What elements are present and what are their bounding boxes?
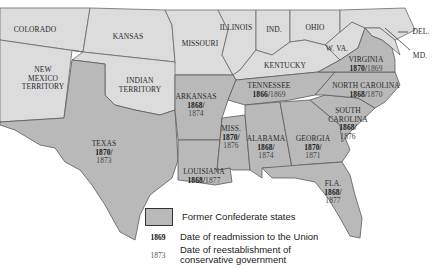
conservative-year: 1869 bbox=[367, 64, 382, 73]
confederate-swatch bbox=[145, 208, 173, 226]
label-tennessee: TENNESSEE 1866/1869 bbox=[248, 82, 291, 99]
label-line: TERRITORY bbox=[22, 83, 64, 92]
legend-conservative-sample: 1873 bbox=[145, 251, 171, 260]
map-legend: Former Confederate states 1869 Date of r… bbox=[145, 208, 318, 265]
conservative-date: 1873 bbox=[92, 157, 117, 166]
label-north-carolina: NORTH CAROLINA 1868/1870 bbox=[332, 82, 399, 99]
conservative-year: 1870 bbox=[367, 90, 382, 99]
label-kentucky: KENTUCKY bbox=[264, 62, 306, 71]
dates: 1870/1869 bbox=[349, 65, 384, 74]
label-delaware: DEL. bbox=[413, 28, 430, 37]
conservative-date: 1876 bbox=[328, 133, 368, 142]
dates: 1868/1870 bbox=[332, 91, 399, 100]
dates: 1868/1877 bbox=[183, 177, 225, 186]
label-arkansas: ARKANSAS 1868/ 1874 bbox=[175, 93, 216, 119]
label-illinois: ILLINOIS bbox=[220, 24, 252, 33]
conservative-date: 1874 bbox=[175, 110, 216, 119]
label-missouri: MISSOURI bbox=[182, 40, 219, 49]
label-virginia: VIRGINIA 1870/1869 bbox=[349, 56, 384, 73]
conservative-date: 1871 bbox=[296, 152, 330, 161]
label-mississippi: MISS. 1870/ 1876 bbox=[221, 125, 241, 151]
label-ohio: OHIO bbox=[305, 24, 324, 33]
conservative-date: 1877 bbox=[324, 197, 342, 206]
readmission-year: 1868 bbox=[350, 90, 365, 99]
label-kansas: KANSAS bbox=[113, 33, 144, 42]
label-colorado: COLORADO bbox=[14, 26, 56, 35]
conservative-year: 1869 bbox=[270, 90, 285, 99]
label-georgia: GEORGIA 1870/ 1871 bbox=[296, 135, 330, 161]
legend-conservative-label: Date of reestablishment of conservative … bbox=[180, 245, 291, 265]
readmission-year: 1868 bbox=[339, 123, 354, 132]
label-indiana: IND. bbox=[266, 26, 282, 35]
label-west-virginia: W. VA. bbox=[326, 45, 348, 54]
readmission-year: 1868 bbox=[187, 176, 202, 185]
conservative-date: 1876 bbox=[221, 142, 241, 151]
label-maryland: MD. bbox=[413, 52, 427, 61]
legend-swatch-label: Former Confederate states bbox=[182, 212, 296, 222]
legend-readmission-sample: 1869 bbox=[145, 233, 171, 242]
conservative-date: 1874 bbox=[247, 152, 286, 161]
label-louisiana: LOUISIANA 1868/1877 bbox=[183, 168, 225, 185]
conservative-year: 1877 bbox=[205, 176, 220, 185]
label-indian-territory: INDIAN TERRITORY bbox=[119, 77, 161, 94]
label-texas: TEXAS 1870/ 1873 bbox=[92, 140, 117, 166]
reconstruction-map: COLORADO KANSAS MISSOURI ILLINOIS IND. O… bbox=[0, 0, 433, 268]
label-alabama: ALABAMA 1868/ 1874 bbox=[247, 135, 286, 161]
readmission-year: 1870 bbox=[350, 64, 365, 73]
dates: 1866/1869 bbox=[248, 91, 291, 100]
label-south-carolina: SOUTH CAROLINA 1868/ 1876 bbox=[328, 107, 368, 141]
legend-readmission-label: Date of readmission to the Union bbox=[180, 232, 318, 242]
readmission-year: 1866 bbox=[252, 90, 267, 99]
label-new-mexico-territory: NEW MEXICO TERRITORY bbox=[22, 66, 64, 92]
label-florida: FLA. 1868/ 1877 bbox=[324, 180, 342, 206]
label-line: TERRITORY bbox=[119, 86, 161, 95]
legend-conservative-line-2: conservative government bbox=[180, 255, 291, 265]
